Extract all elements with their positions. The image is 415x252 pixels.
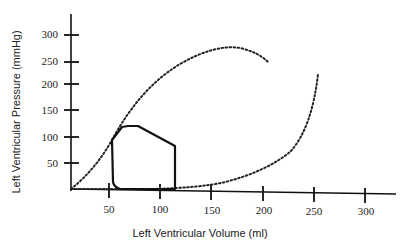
- x-axis-title: Left Ventricular Volume (ml): [132, 227, 267, 239]
- y-axis-title: Left Ventricular Pressure (mmHg): [10, 30, 22, 193]
- x-tick-labels: 50 100 150 200 250 300: [104, 203, 375, 217]
- y-tick-label: 250: [42, 55, 59, 67]
- pv-loop-chart: 50 100 150 200 250 300 50 100 150 200 25…: [0, 0, 415, 252]
- x-tick-label: 150: [204, 204, 221, 216]
- y-tick-label: 200: [42, 78, 59, 90]
- upper-dotted-curve: [71, 47, 268, 189]
- x-tick-label: 200: [256, 204, 273, 216]
- y-tick-labels: 50 100 150 200 250 300: [42, 28, 59, 169]
- x-tick-label: 50: [104, 203, 116, 215]
- y-tick-label: 50: [47, 157, 59, 169]
- x-tick-label: 250: [306, 205, 323, 217]
- y-tick-label: 100: [42, 131, 59, 143]
- edpvr-dotted-curve: [71, 74, 318, 189]
- pv-loop: [112, 126, 175, 189]
- y-tick-label: 300: [42, 28, 59, 40]
- x-tick-label: 100: [152, 203, 169, 215]
- x-tick-label: 300: [358, 205, 375, 217]
- y-tick-label: 150: [42, 104, 59, 116]
